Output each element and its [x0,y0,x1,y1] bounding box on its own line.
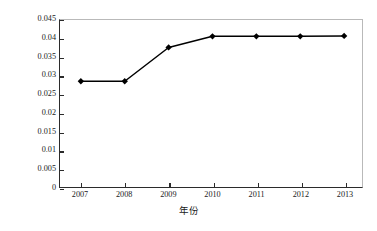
y-axis-tick-label: 0.03 [22,71,56,79]
x-axis-tick-label: 2009 [146,190,190,200]
y-axis-tick-label: 0.01 [22,146,56,154]
y-axis-tick-label: 0.005 [22,165,56,173]
plot-area [59,19,363,188]
y-axis-tick-mark [60,39,64,40]
x-axis-tick-mark [169,183,170,187]
data-point-marker [341,33,347,39]
series-line [81,36,344,81]
x-axis-tick-mark [346,183,347,187]
data-point-marker [209,33,215,39]
y-axis-tick-label: 0.02 [22,109,56,117]
y-axis-tick-mark [60,114,64,115]
y-axis-tick-label: 0.025 [22,90,56,98]
y-axis-tick-mark [60,76,64,77]
x-axis-tick-label: 2013 [323,190,367,200]
y-axis-tick-label: 0 [22,184,56,192]
x-axis-tick-mark [214,183,215,187]
x-axis-tick-mark [125,183,126,187]
y-axis-tick-label: 0.04 [22,34,56,42]
x-axis-tick-label: 2010 [191,190,235,200]
y-axis-tick-label: 0.035 [22,52,56,60]
x-axis-title: 年份 [0,205,377,217]
data-point-marker [253,33,259,39]
y-axis-tick-label: 0.045 [22,15,56,23]
series-line-chart [60,20,362,187]
y-axis-tick-labels: 00.0050.010.0150.020.0250.030.0350.040.0… [22,14,56,189]
y-axis-tick-mark [60,170,64,171]
y-axis-tick-mark [60,58,64,59]
x-axis-tick-label: 2012 [279,190,323,200]
x-axis-tick-labels: 2007200820092010201120122013 [59,190,363,204]
x-axis-tick-label: 2008 [102,190,146,200]
chart-figure: 地均三维量（m3/m2） 00.0050.010.0150.020.0250.0… [0,0,377,231]
x-axis-tick-label: 2007 [58,190,102,200]
y-axis-tick-mark [60,20,64,21]
data-point-marker [78,78,84,84]
x-axis-tick-mark [302,183,303,187]
x-axis-tick-mark [81,183,82,187]
y-axis-tick-label: 0.015 [22,128,56,136]
x-axis-tick-mark [258,183,259,187]
y-axis-tick-mark [60,95,64,96]
y-axis-tick-mark [60,133,64,134]
y-axis-tick-mark [60,151,64,152]
x-axis-tick-label: 2011 [235,190,279,200]
data-point-marker [297,33,303,39]
